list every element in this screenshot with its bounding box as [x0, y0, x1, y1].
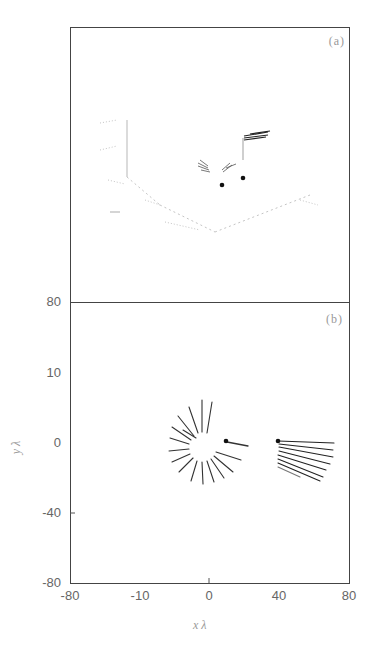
tick-marks: [70, 513, 209, 583]
source-dot-2: [276, 439, 281, 444]
source-dot-1: [224, 439, 229, 444]
marker-dot: [241, 176, 246, 181]
marker-dot: [220, 183, 225, 188]
plot-graphics: [0, 0, 375, 665]
panel-a-scene: [100, 120, 318, 232]
fan-lines: [278, 441, 334, 481]
